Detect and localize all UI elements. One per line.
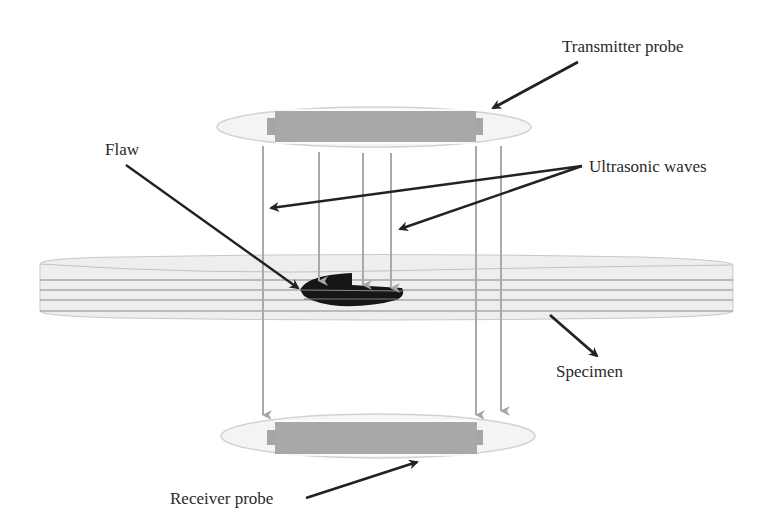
transmitter-probe [217,107,531,147]
receiver-probe [221,414,535,458]
specimen-label: Specimen [556,363,623,380]
waves-leader-arrow-1 [271,166,582,208]
waves-leader-arrow-2 [400,166,582,229]
specimen-leader-arrow [550,315,597,356]
receiver-element [275,422,477,454]
receiver-leader-arrow [306,462,417,498]
ultrasonic-testing-diagram [0,0,773,532]
flaw-label: Flaw [105,141,139,158]
transmitter-element [275,111,476,142]
transmitter-leader-arrow [493,62,578,108]
transmitter-probe-label: Transmitter probe [562,38,684,55]
ultrasonic-waves-label: Ultrasonic waves [589,158,707,175]
receiver-probe-label: Receiver probe [170,490,273,507]
